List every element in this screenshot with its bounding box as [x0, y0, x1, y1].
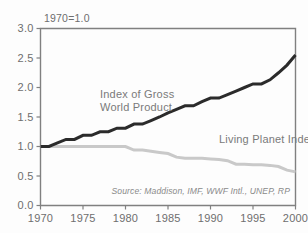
x-tick-label: 1990	[198, 212, 223, 224]
x-tick-label: 1975	[70, 212, 95, 224]
y-tick-label: 2.0	[18, 81, 34, 93]
series-label: Living Planet Index	[219, 133, 308, 145]
y-tick-label: 0.0	[18, 199, 34, 211]
baseline-note: 1970=1.0	[44, 12, 90, 24]
x-tick-label: 2000	[283, 212, 308, 224]
y-tick-label: 2.5	[18, 52, 34, 64]
source-note: Source: Maddison, IMF, WWF Intl., UNEP, …	[111, 186, 290, 196]
y-tick-label: 1.5	[18, 111, 34, 123]
chart-page: 0.00.51.01.52.02.53.0 197019751980198519…	[0, 0, 308, 233]
x-tick-label: 1985	[155, 212, 180, 224]
y-tick-label: 0.5	[18, 170, 34, 182]
series-label: Index of GrossWorld Product	[100, 88, 175, 113]
y-tick-label: 1.0	[18, 140, 34, 152]
x-tick-label: 1980	[113, 212, 138, 224]
line-chart: 0.00.51.01.52.02.53.0 197019751980198519…	[0, 0, 308, 233]
chart-background	[0, 0, 308, 233]
y-tick-label: 3.0	[18, 22, 34, 34]
x-tick-label: 1995	[240, 212, 265, 224]
x-tick-label: 1970	[28, 212, 53, 224]
